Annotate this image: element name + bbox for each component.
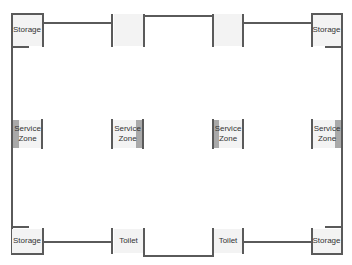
wall	[143, 255, 214, 257]
service-zone-4: Service Zone	[313, 120, 341, 148]
wall	[311, 253, 343, 255]
room-label: Storage	[13, 236, 41, 246]
room-label: Zone	[318, 134, 336, 144]
room-label: Zone	[118, 134, 136, 144]
room-label: Service	[314, 124, 341, 134]
storage-top-right: Storage	[312, 14, 341, 46]
wall	[43, 241, 113, 243]
room-label: Storage	[312, 236, 340, 246]
toilet-2: Toilet	[214, 229, 242, 253]
wall	[42, 13, 44, 47]
wall	[43, 22, 113, 24]
wall	[144, 15, 214, 17]
door-post	[143, 228, 145, 257]
service-zone-2: Service Zone	[113, 120, 142, 148]
toilet-1: Toilet	[114, 229, 143, 253]
room-label: Service	[215, 124, 242, 134]
wall	[242, 119, 244, 149]
wall	[11, 253, 44, 255]
door-post	[242, 14, 244, 47]
door-post	[111, 14, 113, 47]
outer-wall-right	[341, 13, 343, 255]
wall	[11, 13, 44, 15]
wall	[11, 46, 29, 48]
wall	[11, 226, 29, 228]
storage-bottom-left: Storage	[12, 229, 42, 253]
storage-top-left: Storage	[12, 14, 42, 46]
opening-top-2	[214, 14, 242, 46]
room-label: Zone	[219, 134, 237, 144]
door-post	[143, 14, 145, 47]
wall	[111, 119, 113, 149]
wall	[243, 22, 312, 24]
room-label: Zone	[18, 134, 36, 144]
door-post	[111, 228, 113, 254]
service-zone-1: Service Zone	[13, 120, 42, 148]
wall	[142, 119, 144, 149]
service-zone-3: Service Zone	[214, 120, 242, 148]
room-label: Toilet	[219, 236, 238, 246]
wall	[243, 241, 312, 243]
room-label: Storage	[312, 25, 340, 35]
wall	[325, 226, 343, 228]
room-label: Storage	[13, 25, 41, 35]
wall	[41, 119, 43, 149]
room-label: Toilet	[119, 236, 138, 246]
room-label: Service	[14, 124, 41, 134]
wall	[311, 13, 343, 15]
storage-bottom-right: Storage	[312, 229, 341, 253]
room-label: Service	[114, 124, 141, 134]
opening-top-1	[114, 14, 144, 46]
